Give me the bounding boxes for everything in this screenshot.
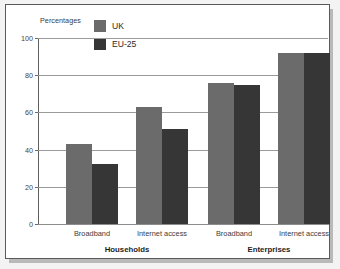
y-axis-tick-mark xyxy=(35,150,38,151)
category-label-2: Broadband xyxy=(216,229,252,238)
y-axis-tick-label: 40 xyxy=(25,145,33,154)
category-label-1: Internet access xyxy=(137,229,187,238)
y-axis-title: Percentages xyxy=(40,16,81,25)
bar-uk-3[interactable] xyxy=(278,53,304,224)
category-label-0: Broadband xyxy=(74,229,110,238)
y-axis-tick-label: 60 xyxy=(25,108,33,117)
bar-eu-25-1[interactable] xyxy=(162,129,188,224)
category-label-3: Internet access xyxy=(279,229,329,238)
gridline xyxy=(38,38,328,39)
y-axis-tick-mark xyxy=(35,75,38,76)
y-axis-tick-mark xyxy=(35,112,38,113)
bar-eu-25-2[interactable] xyxy=(234,85,260,225)
y-axis-tick-label: 100 xyxy=(21,34,33,43)
group-label-1: Enterprises xyxy=(248,245,291,254)
y-axis-tick-label: 0 xyxy=(29,220,33,229)
figure-root: Percentages UK EU-25 020406080100 Broadb… xyxy=(0,0,340,269)
plot-area: 020406080100 xyxy=(38,38,328,224)
chart-panel: Percentages UK EU-25 020406080100 Broadb… xyxy=(5,4,330,259)
bar-eu-25-3[interactable] xyxy=(304,53,330,224)
legend-label-uk: UK xyxy=(112,21,124,31)
y-axis-tick-mark xyxy=(35,224,38,225)
group-label-0: Households xyxy=(105,245,150,254)
bar-eu-25-0[interactable] xyxy=(92,164,118,224)
legend-item-uk[interactable]: UK xyxy=(94,17,136,35)
y-axis-tick-mark xyxy=(35,187,38,188)
bar-uk-0[interactable] xyxy=(66,144,92,224)
y-axis-tick-label: 80 xyxy=(25,71,33,80)
legend-swatch-uk xyxy=(94,20,106,32)
x-axis-spine xyxy=(38,224,329,225)
bar-uk-1[interactable] xyxy=(136,107,162,224)
y-axis-tick-label: 20 xyxy=(25,182,33,191)
bar-uk-2[interactable] xyxy=(208,83,234,224)
y-axis-tick-mark xyxy=(35,38,38,39)
